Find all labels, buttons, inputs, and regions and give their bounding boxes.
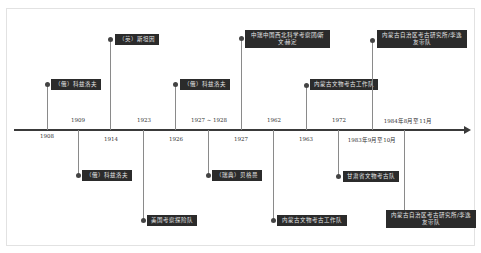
event-label: （英）斯坦因 — [115, 34, 159, 45]
event-dot — [76, 173, 81, 178]
event-dot — [206, 173, 211, 178]
event-label: 美国考察探险队 — [147, 215, 197, 226]
event-year: 1927 ~ 1928 — [191, 117, 227, 123]
event-dot — [370, 38, 375, 43]
event-dot — [336, 174, 341, 179]
event-year: 1984年8月至11月 — [384, 117, 433, 125]
event-year: 1983年9月至10月 — [348, 136, 397, 144]
event-year: 1972 — [332, 117, 346, 123]
event-label: （俄）科兹洛夫 — [180, 79, 230, 90]
event-dot — [141, 218, 146, 223]
event-dot — [173, 82, 178, 87]
event-stem — [372, 40, 373, 130]
timeline-axis — [14, 129, 466, 131]
event-label: 内蒙古自治区考古研究所/李逸友带队 — [377, 30, 467, 48]
event-dot — [239, 36, 244, 41]
event-stem — [273, 130, 274, 221]
event-stem — [208, 130, 209, 176]
event-dot — [45, 82, 50, 87]
event-year: 1963 — [299, 136, 313, 142]
event-label: 内蒙古文物考古工作队 — [310, 79, 378, 90]
event-label: （俄）科兹洛夫 — [51, 79, 101, 90]
event-label: （俄）科兹洛夫 — [82, 170, 132, 181]
event-year: 1909 — [71, 117, 85, 123]
event-stem — [306, 85, 307, 130]
event-stem — [110, 40, 111, 130]
event-year: 1926 — [169, 136, 183, 142]
event-label: （瑞典）贝格曼 — [212, 170, 262, 181]
event-dot — [108, 37, 113, 42]
axis-arrow-icon — [464, 126, 471, 134]
event-year: 1914 — [104, 136, 118, 142]
event-label: 甘肃省文物考古队 — [343, 171, 399, 182]
event-stem — [78, 130, 79, 175]
event-stem — [338, 130, 339, 176]
event-label: 内蒙古文物考古工作队 — [277, 215, 347, 226]
event-year: 1908 — [40, 133, 54, 139]
event-label: 中瑞中国西北科学考察团/斯文·赫定 — [245, 30, 330, 48]
event-dot — [271, 218, 276, 223]
event-stem — [143, 130, 144, 221]
event-stem — [47, 84, 48, 130]
event-stem — [241, 38, 242, 130]
event-dot — [304, 83, 309, 88]
event-year: 1962 — [267, 117, 281, 123]
event-stem — [404, 130, 405, 210]
event-year: 1927 — [234, 136, 248, 142]
event-stem — [175, 84, 176, 130]
event-label: 内蒙古自治区考古研究所/李逸友带队 — [386, 210, 476, 228]
event-year: 1923 — [137, 117, 151, 123]
